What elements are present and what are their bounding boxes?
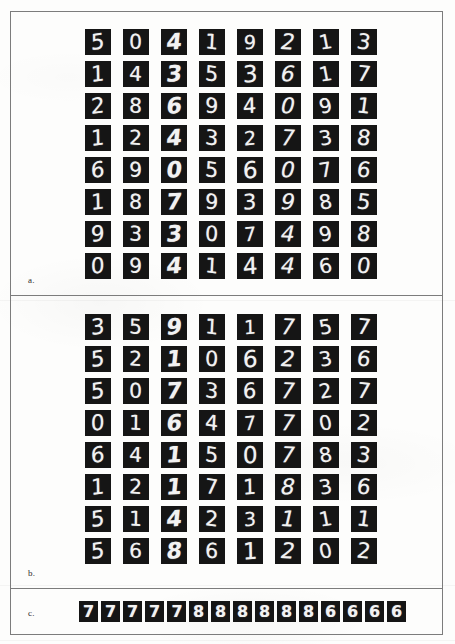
- digit-tile: 6: [237, 378, 263, 404]
- digit-tile: 3: [161, 221, 187, 247]
- digit-glyph: 0: [205, 348, 219, 371]
- digit-glyph: 1: [205, 31, 219, 54]
- digit-glyph: 5: [205, 444, 219, 467]
- digit-tile: 8: [277, 601, 296, 622]
- digit-tile: 0: [275, 93, 301, 119]
- digit-tile: 0: [123, 378, 149, 404]
- digit-glyph: 9: [244, 32, 257, 52]
- digit-tile: 8: [313, 442, 339, 468]
- digit-glyph: 6: [356, 159, 373, 182]
- digit-glyph: 0: [129, 31, 142, 52]
- panel-c: 777778888886666 c.: [11, 589, 442, 635]
- digit-glyph: 8: [237, 604, 248, 620]
- digit-glyph: 1: [242, 539, 257, 564]
- digit-glyph: 8: [318, 191, 335, 213]
- digit-glyph: 1: [165, 475, 183, 498]
- digit-glyph: 3: [244, 509, 257, 529]
- digit-glyph: 2: [205, 508, 219, 531]
- digit-tile: 5: [85, 346, 111, 372]
- digit-tile: 1: [161, 442, 187, 468]
- digit-tile: 7: [275, 314, 301, 340]
- digit-glyph: 7: [171, 604, 181, 620]
- digit-tile: 0: [351, 253, 377, 279]
- digit-glyph: 4: [129, 444, 142, 465]
- digit-glyph: 3: [318, 476, 335, 498]
- digit-tile: 6: [123, 538, 149, 564]
- digit-glyph: 3: [165, 62, 183, 85]
- digit-glyph: 0: [91, 411, 105, 434]
- digit-glyph: 6: [91, 443, 105, 466]
- digit-glyph: 6: [165, 94, 183, 117]
- digit-tile: 2: [275, 29, 301, 55]
- digit-glyph: 8: [259, 604, 270, 620]
- digit-tile: 1: [237, 538, 263, 564]
- digit-glyph: 3: [243, 191, 257, 213]
- digit-tile: 1: [199, 253, 225, 279]
- digit-glyph: 7: [279, 127, 298, 149]
- digit-glyph: 2: [318, 380, 335, 402]
- digit-glyph: 0: [279, 95, 298, 117]
- digit-tile: 7: [275, 410, 301, 436]
- digit-tile: 7: [313, 157, 339, 183]
- digit-glyph: 3: [242, 62, 257, 87]
- digit-tile: 3: [123, 221, 149, 247]
- digit-tile: 5: [85, 29, 111, 55]
- digit-glyph: 4: [165, 126, 183, 149]
- digit-glyph: 2: [129, 476, 142, 497]
- digit-tile: 7: [101, 601, 120, 622]
- digit-tile: 9: [123, 253, 149, 279]
- digit-glyph: 6: [325, 604, 336, 620]
- digit-glyph: 1: [91, 126, 105, 149]
- digit-glyph: 7: [83, 604, 94, 620]
- digit-glyph: 8: [356, 127, 373, 150]
- digit-tile: 2: [123, 346, 149, 372]
- digit-tile: 3: [351, 29, 377, 55]
- digit-tile: 8: [123, 93, 149, 119]
- digit-glyph: 7: [356, 380, 373, 403]
- digit-glyph: 6: [91, 158, 105, 181]
- digit-tile: 8: [299, 601, 318, 622]
- digit-glyph: 1: [91, 475, 105, 498]
- digit-glyph: 8: [356, 223, 373, 246]
- digit-glyph: 5: [91, 507, 105, 530]
- digit-tile: 2: [275, 346, 301, 372]
- digit-glyph: 9: [91, 222, 105, 245]
- digit-tile: 6: [85, 442, 111, 468]
- digit-tile: 9: [237, 29, 263, 55]
- digit-tile: 9: [85, 221, 111, 247]
- digit-tile: 3: [313, 474, 339, 500]
- digit-glyph: 1: [165, 443, 183, 466]
- digit-glyph: 5: [91, 347, 105, 370]
- digit-tile: 4: [161, 253, 187, 279]
- digit-tile: 8: [189, 601, 208, 622]
- panel-b: 3591175752106236507367270164770264150783…: [11, 296, 442, 589]
- digit-tile: 4: [161, 125, 187, 151]
- digit-glyph: 3: [165, 222, 183, 245]
- digit-tile: 9: [275, 189, 301, 215]
- digit-tile: 5: [85, 538, 111, 564]
- digit-glyph: 6: [242, 347, 257, 372]
- digit-glyph: 1: [205, 316, 219, 339]
- digit-glyph: 1: [165, 347, 183, 370]
- digit-strip-c: 777778888886666: [79, 601, 406, 622]
- digit-glyph: 6: [205, 540, 219, 563]
- digit-glyph: 7: [279, 380, 298, 402]
- digit-tile: 7: [351, 61, 377, 87]
- digit-tile: 9: [161, 314, 187, 340]
- digit-tile: 0: [85, 410, 111, 436]
- digit-tile: 1: [85, 474, 111, 500]
- digit-glyph: 6: [369, 604, 380, 620]
- digit-glyph: 0: [318, 540, 335, 562]
- digit-tile: 0: [313, 410, 339, 436]
- digit-glyph: 1: [91, 62, 105, 85]
- digit-glyph: 8: [165, 539, 183, 562]
- digit-glyph: 2: [91, 94, 105, 117]
- digit-tile: 4: [275, 253, 301, 279]
- digit-glyph: 7: [205, 476, 219, 499]
- digit-glyph: 9: [129, 255, 142, 276]
- digit-glyph: 9: [129, 159, 142, 180]
- digit-glyph: 1: [318, 63, 335, 85]
- digit-glyph: 3: [318, 348, 335, 370]
- digit-glyph: 6: [356, 348, 373, 371]
- digit-tile: 7: [275, 442, 301, 468]
